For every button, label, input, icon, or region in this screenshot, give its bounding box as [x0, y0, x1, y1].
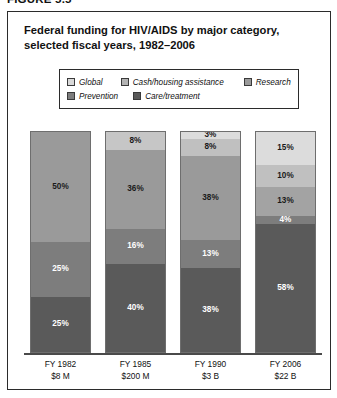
stacked-bar-fy-1982[interactable]: 50%25%25% [30, 131, 91, 353]
x-axis-tick-year: FY 1990 [173, 359, 248, 371]
figure-page: FIGURE 5.5 Federal funding for HIV/AIDS … [0, 0, 337, 398]
bar-segment-cash-housing-assistance: 8% [181, 139, 240, 157]
bar-segment-value-label: 4% [279, 216, 291, 224]
bar-segment-research: 50% [31, 132, 90, 242]
bar-segment-value-label: 50% [52, 183, 69, 191]
x-axis-tick-2: FY 1990$3 B [173, 359, 248, 382]
x-axis-tick-0: FY 1982$8 M [23, 359, 98, 382]
figure-frame: Federal funding for HIV/AIDS by major ca… [7, 11, 331, 390]
x-axis-tick-amount: $22 B [248, 371, 323, 383]
legend-swatch-prevention [67, 92, 75, 100]
legend-row-2: Prevention Care/treatment [67, 89, 292, 103]
chart-legend: Global Cash/housing assistance Research … [59, 69, 299, 109]
stacked-bar-fy-1990[interactable]: 3%8%38%13%38% [180, 131, 241, 353]
legend-swatch-cash-housing-assistance [121, 78, 129, 86]
bar-segment-prevention: 13% [181, 240, 240, 269]
bar-segment-value-label: 15% [277, 144, 294, 152]
x-axis-tick-year: FY 1982 [23, 359, 98, 371]
bar-segment-cash-housing-assistance: 8% [106, 132, 165, 150]
bar-segment-value-label: 10% [277, 172, 294, 180]
plot-area: 50%25%25%8%36%16%40%3%8%38%13%38%15%10%1… [24, 120, 322, 366]
figure-number-label: FIGURE 5.5 [7, 0, 72, 5]
bar-segment-value-label: 8% [204, 143, 216, 151]
bar-segment-global: 3% [181, 132, 240, 139]
bar-segment-global: 15% [256, 132, 315, 165]
x-axis-labels: FY 1982$8 MFY 1985$200 MFY 1990$3 BFY 20… [24, 359, 322, 393]
bar-segment-research: 13% [256, 187, 315, 216]
bar-segment-value-label: 13% [277, 197, 294, 205]
bar-segment-value-label: 3% [204, 132, 216, 139]
bar-segment-care-treatment: 25% [31, 297, 90, 352]
chart-title: Federal funding for HIV/AIDS by major ca… [24, 23, 320, 53]
legend-swatch-global [67, 78, 75, 86]
bar-segment-care-treatment: 58% [256, 224, 315, 352]
x-axis-tick-amount: $8 M [23, 371, 98, 383]
bar-segment-value-label: 25% [52, 320, 69, 328]
bar-segment-cash-housing-assistance: 10% [256, 165, 315, 187]
bar-segment-care-treatment: 38% [181, 268, 240, 352]
x-axis-line [24, 353, 322, 355]
legend-swatch-research [244, 78, 252, 86]
stacked-bar-fy-1985[interactable]: 8%36%16%40% [105, 131, 166, 353]
bar-segment-value-label: 36% [127, 185, 144, 193]
stacked-bar-fy-2006[interactable]: 15%10%13%4%58% [255, 131, 316, 353]
x-axis-tick-year: FY 1985 [98, 359, 173, 371]
legend-row-1: Global Cash/housing assistance Research [67, 75, 292, 89]
bar-segment-research: 38% [181, 156, 240, 240]
bar-segment-value-label: 8% [129, 137, 141, 145]
legend-label-cash-housing-assistance: Cash/housing assistance [133, 78, 224, 87]
bar-segment-value-label: 25% [52, 265, 69, 273]
bar-segment-value-label: 16% [127, 242, 144, 250]
legend-label-research: Research [256, 78, 291, 87]
legend-item-prevention[interactable]: Prevention [67, 92, 118, 101]
legend-swatch-care-treatment [133, 92, 141, 100]
bar-segment-prevention: 25% [31, 242, 90, 297]
legend-item-cash-housing-assistance[interactable]: Cash/housing assistance [121, 78, 224, 87]
bar-segment-value-label: 38% [202, 194, 219, 202]
x-axis-tick-amount: $200 M [98, 371, 173, 383]
bar-segment-prevention: 16% [106, 229, 165, 264]
x-axis-tick-amount: $3 B [173, 371, 248, 383]
bar-segment-value-label: 38% [202, 306, 219, 314]
legend-item-research[interactable]: Research [244, 78, 291, 87]
bar-segment-prevention: 4% [256, 216, 315, 225]
x-axis-tick-3: FY 2006$22 B [248, 359, 323, 382]
legend-label-global: Global [79, 78, 103, 87]
stacked-bar-group: 50%25%25%8%36%16%40%3%8%38%13%38%15%10%1… [24, 120, 322, 353]
legend-label-prevention: Prevention [79, 92, 118, 101]
legend-item-care-treatment[interactable]: Care/treatment [133, 92, 200, 101]
legend-item-global[interactable]: Global [67, 78, 103, 87]
x-axis-tick-year: FY 2006 [248, 359, 323, 371]
bar-segment-value-label: 13% [202, 250, 219, 258]
bar-segment-care-treatment: 40% [106, 264, 165, 352]
x-axis-tick-1: FY 1985$200 M [98, 359, 173, 382]
bar-segment-research: 36% [106, 150, 165, 229]
bar-segment-value-label: 40% [127, 304, 144, 312]
legend-label-care-treatment: Care/treatment [145, 92, 200, 101]
bar-segment-value-label: 58% [277, 284, 294, 292]
